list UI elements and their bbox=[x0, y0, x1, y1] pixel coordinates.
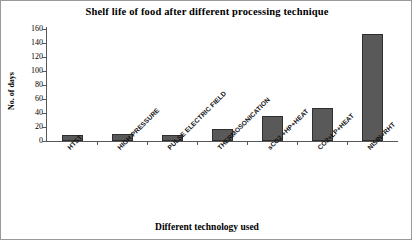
x-tick-mark bbox=[347, 141, 348, 145]
chart-title: Shelf life of food after different proce… bbox=[1, 6, 412, 17]
x-tick-mark bbox=[197, 141, 198, 145]
y-tick-mark bbox=[42, 71, 46, 72]
x-tick-mark bbox=[247, 141, 248, 145]
y-tick-label: 0 bbox=[11, 137, 43, 145]
y-tick-label: 160 bbox=[11, 25, 43, 33]
y-tick-label-text: 0 bbox=[13, 137, 43, 145]
y-tick-label-text: 100 bbox=[13, 67, 43, 75]
y-tick-mark bbox=[42, 99, 46, 100]
y-tick-mark bbox=[42, 141, 46, 142]
y-tick-mark bbox=[42, 85, 46, 86]
y-tick-mark bbox=[42, 57, 46, 58]
y-tick-mark bbox=[42, 43, 46, 44]
y-tick-mark bbox=[42, 29, 46, 30]
y-tick-mark bbox=[42, 127, 46, 128]
y-tick-label: 20 bbox=[11, 123, 43, 131]
y-tick-label-text: 140 bbox=[13, 39, 43, 47]
x-axis-title: Different technology used bbox=[1, 222, 412, 232]
x-tick-mark bbox=[97, 141, 98, 145]
y-tick-label-text: 20 bbox=[13, 123, 43, 131]
y-tick-label: 120 bbox=[11, 53, 43, 61]
y-tick-label-text: 80 bbox=[13, 81, 43, 89]
y-tick-label-text: 120 bbox=[13, 53, 43, 61]
y-tick-label-text: 40 bbox=[13, 109, 43, 117]
x-tick-mark bbox=[297, 141, 298, 145]
y-tick-label: 100 bbox=[11, 67, 43, 75]
bar-chart-figure: Shelf life of food after different proce… bbox=[0, 0, 412, 240]
y-tick-label: 140 bbox=[11, 39, 43, 47]
y-tick-mark bbox=[42, 113, 46, 114]
bar bbox=[362, 34, 383, 141]
y-tick-label: 60 bbox=[11, 95, 43, 103]
y-tick-label: 40 bbox=[11, 109, 43, 117]
y-tick-label: 80 bbox=[11, 81, 43, 89]
y-tick-label-text: 160 bbox=[13, 25, 43, 33]
y-tick-label-text: 60 bbox=[13, 95, 43, 103]
x-tick-mark bbox=[147, 141, 148, 145]
